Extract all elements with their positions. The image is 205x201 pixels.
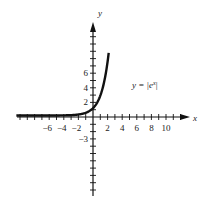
x-axis-label: x <box>192 113 197 123</box>
svg-text:6: 6 <box>84 68 89 78</box>
svg-text:−2: −2 <box>72 123 82 133</box>
equation-label: y = |ex| <box>131 80 158 90</box>
exponential-graph: −6−4−2246810246−3 y x y = |ex| <box>0 0 205 201</box>
svg-text:−4: −4 <box>57 123 67 133</box>
y-axis-label: y <box>97 8 102 18</box>
svg-text:4: 4 <box>84 83 89 93</box>
svg-text:−3: −3 <box>78 134 88 144</box>
axes <box>17 22 190 196</box>
svg-text:4: 4 <box>120 123 125 133</box>
svg-text:6: 6 <box>135 123 140 133</box>
curve-exp <box>16 53 108 116</box>
svg-text:8: 8 <box>149 123 154 133</box>
svg-text:−6: −6 <box>42 123 52 133</box>
svg-text:10: 10 <box>162 123 172 133</box>
svg-text:2: 2 <box>105 123 110 133</box>
svg-text:2: 2 <box>84 97 89 107</box>
